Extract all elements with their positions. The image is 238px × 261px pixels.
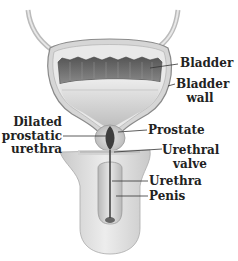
label-dilated-line1: Dilated <box>0 116 62 128</box>
label-bladder: Bladder <box>180 57 233 69</box>
label-dilated-line3: urethra <box>0 143 62 155</box>
label-penis: Penis <box>149 190 185 202</box>
label-urethral-valve-line2: valve <box>162 158 218 170</box>
label-bladder-wall-line2: wall <box>176 92 224 104</box>
label-urethral-valve-line1: Urethral <box>162 144 219 156</box>
label-bladder-wall-line1: Bladder <box>176 78 224 90</box>
diagram-canvas: Bladder Bladder wall Dilated prostatic u… <box>0 0 238 261</box>
label-urethra: Urethra <box>149 175 202 187</box>
label-prostate: Prostate <box>148 124 205 136</box>
bladder-urine <box>60 79 160 128</box>
label-dilated-line2: prostatic <box>0 130 62 142</box>
